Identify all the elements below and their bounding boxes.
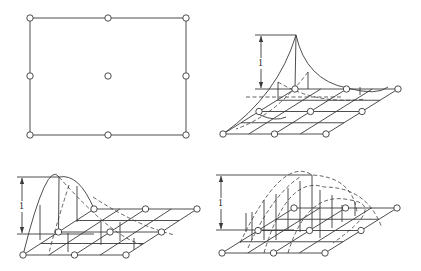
node-circle (358, 227, 364, 233)
node-circle (27, 15, 33, 21)
node-circle (256, 108, 262, 114)
surface-edge-curve (260, 115, 286, 119)
arrowhead-up-icon (219, 176, 223, 182)
arrowhead-down-icon (219, 223, 223, 229)
node-circle (323, 131, 329, 137)
dimension-label: 1 (218, 197, 223, 208)
arrowhead-up-icon (20, 178, 24, 184)
surface-edge-curve (223, 35, 296, 134)
shape-function-diagram: 1 1 1 (0, 0, 421, 271)
node-circle (394, 205, 400, 211)
node-circle (359, 108, 365, 114)
node-circle (183, 132, 189, 138)
center-node-shape-function-panel: 1 (216, 171, 400, 256)
node-circle (183, 73, 189, 79)
node-circle (71, 252, 77, 258)
arrowhead-up-icon (259, 36, 263, 42)
node-circle (271, 131, 277, 137)
node-circle (105, 132, 111, 138)
node-circle (55, 229, 61, 235)
node-circle (307, 108, 313, 114)
ordinate-line (59, 177, 60, 232)
element-plan-panel (27, 15, 189, 138)
node-circle (270, 250, 276, 256)
node-circle (105, 15, 111, 21)
node-circle (105, 73, 111, 79)
node-circle (343, 86, 349, 92)
node-circle (255, 227, 261, 233)
node-circle (322, 250, 328, 256)
node-circle (220, 131, 226, 137)
dimension-label: 1 (258, 57, 263, 68)
node-circle (306, 227, 312, 233)
midside-node-shape-function-panel: 1 (17, 174, 200, 258)
dimension-label: 1 (19, 200, 24, 211)
node-circle (342, 205, 348, 211)
arrowhead-down-icon (20, 227, 24, 233)
node-circle (107, 229, 113, 235)
node-circle (20, 252, 26, 258)
node-circle (27, 73, 33, 79)
corner-node-shape-function-panel: 1 (220, 35, 401, 137)
node-circle (123, 252, 129, 258)
ordinate-line (295, 35, 296, 89)
node-circle (27, 132, 33, 138)
arrowhead-down-icon (259, 82, 263, 88)
node-circle (158, 229, 164, 235)
node-circle (183, 15, 189, 21)
node-circle (395, 86, 401, 92)
surface-edge-curve (296, 35, 388, 92)
node-circle (291, 205, 297, 211)
node-circle (194, 206, 200, 212)
node-circle (91, 206, 97, 212)
node-circle (219, 250, 225, 256)
node-circle (292, 86, 298, 92)
node-circle (142, 206, 148, 212)
